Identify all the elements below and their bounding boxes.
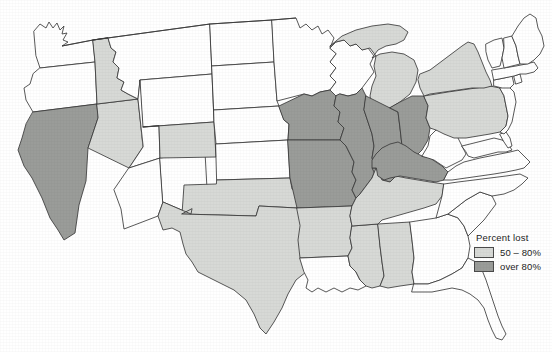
state-WA[interactable]: [34, 22, 95, 68]
state-NE[interactable]: [214, 106, 289, 144]
state-NY[interactable]: [418, 42, 492, 96]
legend-label-50-80: 50 – 80%: [500, 247, 541, 258]
legend-swatch-over-80: [474, 261, 494, 272]
state-PA[interactable]: [424, 86, 508, 138]
state-AR[interactable]: [297, 206, 352, 258]
legend-item-50-80[interactable]: 50 – 80%: [474, 247, 548, 258]
map-figure: Percent lost 50 – 80% over 80%: [0, 0, 552, 352]
state-CA[interactable]: [18, 104, 98, 240]
legend-swatch-50-80: [474, 247, 494, 258]
legend-title: Percent lost: [476, 232, 548, 243]
state-MN[interactable]: [272, 18, 336, 101]
state-OR[interactable]: [24, 62, 97, 112]
state-SD[interactable]: [212, 62, 279, 110]
legend-item-over-80[interactable]: over 80%: [474, 261, 548, 272]
state-AL[interactable]: [378, 222, 414, 288]
state-MO[interactable]: [288, 140, 356, 208]
us-choropleth-map: [0, 0, 552, 352]
state-KS[interactable]: [216, 140, 290, 180]
state-ND[interactable]: [210, 20, 274, 66]
state-VT[interactable]: [486, 38, 504, 68]
legend: Percent lost 50 – 80% over 80%: [474, 232, 548, 275]
state-AZ[interactable]: [114, 158, 163, 229]
legend-label-over-80: over 80%: [500, 261, 541, 272]
state-WY[interactable]: [140, 74, 214, 127]
